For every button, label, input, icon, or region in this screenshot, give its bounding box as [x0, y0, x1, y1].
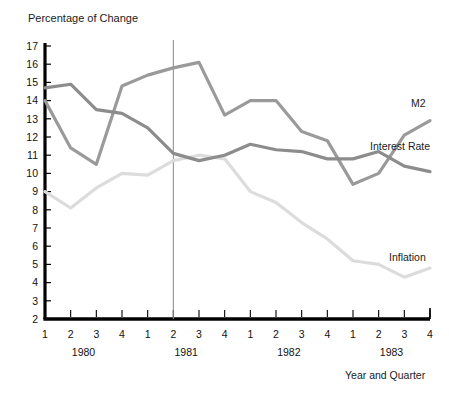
x-tick-label: 2 [273, 328, 279, 340]
y-tick-label: 11 [27, 149, 38, 161]
chart-container: Percentage of Change 1716151413121110987… [0, 0, 449, 395]
y-tick-label: 14 [26, 94, 38, 106]
series-label-interest-rate: Interest Rate [370, 140, 430, 152]
x-year-label: 1982 [277, 346, 301, 358]
y-tick-label: 13 [26, 113, 38, 125]
y-tick-label: 3 [32, 295, 38, 307]
x-tick-label: 3 [401, 328, 407, 340]
x-axis [43, 308, 430, 319]
series-line-interest-rate [45, 84, 430, 171]
x-tick-label: 4 [427, 328, 433, 340]
x-tick-label: 1 [145, 328, 151, 340]
y-tick-label: 7 [32, 222, 38, 234]
x-tick-label: 2 [170, 328, 176, 340]
x-tick-label: 1 [350, 328, 356, 340]
y-tick-label: 16 [26, 58, 38, 70]
chart-plot-area: 171615141312111098765432 123412341234123… [0, 0, 449, 395]
y-tick-label: 12 [26, 131, 38, 143]
x-year-label: 1980 [72, 346, 96, 358]
y-tick-label: 6 [32, 240, 38, 252]
y-tick-label: 8 [32, 204, 38, 216]
y-tick-label: 15 [26, 76, 38, 88]
series-label-m2: M2 [411, 97, 426, 109]
y-tick-label: 4 [32, 276, 38, 288]
x-tick-label: 4 [324, 328, 330, 340]
x-tick-label: 4 [222, 328, 228, 340]
x-year-label: 1981 [174, 346, 198, 358]
x-axis-caption: Year and Quarter [345, 369, 425, 381]
series-layer [45, 62, 430, 277]
y-tick-label: 10 [26, 167, 38, 179]
x-tick-label: 1 [42, 328, 48, 340]
x-tick-label: 3 [93, 328, 99, 340]
x-tick-label: 4 [119, 328, 125, 340]
x-tick-label: 2 [376, 328, 382, 340]
y-tick-label: 17 [26, 40, 38, 52]
x-tick-labels: 1234123412341234 [42, 328, 433, 340]
y-axis: 171615141312111098765432 [26, 40, 51, 325]
x-tick-label: 3 [196, 328, 202, 340]
x-tick-label: 1 [247, 328, 253, 340]
x-tick-label: 2 [68, 328, 74, 340]
y-tick-label: 5 [32, 258, 38, 270]
x-year-label: 1983 [380, 346, 404, 358]
series-line-m2 [45, 62, 430, 184]
x-year-labels: 1980198119821983 [72, 346, 404, 358]
series-line-inflation [45, 155, 430, 277]
y-tick-label: 2 [32, 313, 38, 325]
x-tick-label: 3 [299, 328, 305, 340]
series-label-inflation: Inflation [389, 251, 426, 263]
y-tick-label: 9 [32, 185, 38, 197]
